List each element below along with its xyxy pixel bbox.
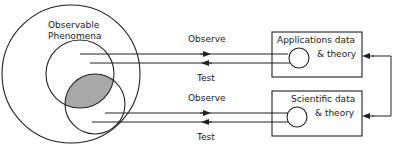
top-test-label: Test: [197, 73, 215, 83]
scientific-node-circle: [287, 107, 307, 127]
bottom-test-label: Test: [197, 132, 215, 142]
universe-label-line2: Phenomena: [48, 31, 101, 41]
applications-node-circle: [289, 48, 309, 68]
feedback-connector: [372, 56, 391, 116]
scientific-box-line2: & theory: [315, 108, 354, 118]
applications-box-line2: & theory: [317, 49, 356, 59]
bottom-observe-label: Observe: [188, 93, 226, 103]
applications-box-line1: Applications data: [277, 35, 355, 45]
scientific-box-line1: Scientific data: [291, 94, 355, 104]
universe-label-line1: Observable: [48, 20, 99, 30]
top-observe-label: Observe: [188, 34, 226, 44]
